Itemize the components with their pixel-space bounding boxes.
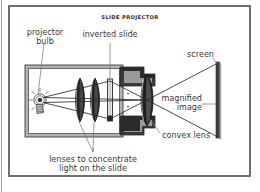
label-screen: screen <box>178 50 214 59</box>
label-inverted-slide: inverted slide <box>76 30 144 39</box>
inverted-slide-element <box>108 79 113 121</box>
screen-element <box>216 62 221 140</box>
label-magnified-image: magnified image <box>160 94 202 111</box>
label-condenser-lenses: lenses to concentrate light on the slide <box>43 155 143 172</box>
figure-container: SLIDE PROJECTOR projector bulb inverted … <box>0 0 260 192</box>
label-convex-lens: convex lens <box>162 131 210 140</box>
label-projector-bulb: projector bulb <box>20 28 70 45</box>
figure-title: SLIDE PROJECTOR <box>0 14 260 20</box>
